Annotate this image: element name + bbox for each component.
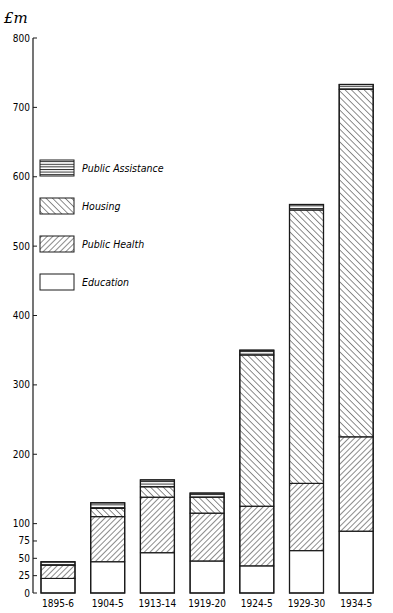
bar-segment-public-health — [339, 437, 373, 531]
legend-swatch-education — [40, 274, 74, 290]
bar-1934-5 — [339, 84, 373, 593]
x-tick-label: 1919-20 — [188, 598, 226, 609]
x-tick-label: 1895-6 — [42, 598, 74, 609]
y-tick-label: 0 — [24, 588, 30, 599]
bar-segment-education — [240, 566, 274, 593]
bar-1919-20 — [190, 493, 224, 593]
bar-segment-public-assistance — [339, 84, 373, 89]
y-tick-label: 600 — [13, 171, 30, 182]
legend-swatch-housing — [40, 198, 74, 214]
x-axis-labels: 1895-61904-51913-141919-201924-51929-301… — [42, 598, 372, 609]
legend-swatch-public-health — [40, 236, 74, 252]
bar-segment-public-health — [140, 497, 174, 553]
bar-segment-housing — [140, 487, 174, 497]
bar-segment-housing — [290, 210, 324, 483]
y-tick-label: 500 — [13, 241, 30, 252]
y-tick-label: 400 — [13, 310, 30, 321]
y-tick-label: 75 — [19, 535, 30, 546]
bar-1913-14 — [140, 480, 174, 593]
legend: Public AssistanceHousingPublic HealthEdu… — [40, 160, 164, 290]
x-tick-label: 1934-5 — [340, 598, 372, 609]
x-tick-label: 1924-5 — [241, 598, 273, 609]
y-tick-label: 800 — [13, 33, 30, 44]
bar-segment-education — [339, 531, 373, 593]
bar-segment-public-assistance — [140, 480, 174, 487]
x-tick-label: 1904-5 — [92, 598, 124, 609]
bar-segment-public-health — [91, 517, 125, 562]
bar-segment-education — [140, 553, 174, 593]
bar-segment-public-assistance — [240, 350, 274, 355]
bar-1929-30 — [290, 205, 324, 594]
bar-segment-housing — [240, 355, 274, 506]
legend-swatch-public-assistance — [40, 160, 74, 176]
x-tick-label: 1929-30 — [288, 598, 326, 609]
stacked-bar-chart: £m 0255075100200300400500600700800 Publi… — [0, 0, 393, 613]
bar-segment-housing — [91, 508, 125, 516]
bar-segment-public-assistance — [290, 205, 324, 211]
bars — [41, 84, 373, 593]
bar-1895-6 — [41, 562, 75, 593]
bar-segment-public-health — [190, 513, 224, 561]
legend-label: Education — [82, 276, 129, 288]
bar-1904-5 — [91, 503, 125, 593]
bar-segment-public-health — [41, 565, 75, 578]
legend-label: Housing — [82, 200, 120, 212]
y-axis-label: £m — [3, 9, 28, 27]
bar-segment-education — [91, 562, 125, 593]
bar-segment-public-health — [240, 506, 274, 566]
legend-label: Public Assistance — [82, 162, 164, 174]
bar-1924-5 — [240, 350, 274, 593]
y-tick-label: 100 — [13, 518, 30, 529]
bar-segment-housing — [190, 497, 224, 513]
y-tick-label: 300 — [13, 379, 30, 390]
y-tick-label: 200 — [13, 449, 30, 460]
bar-segment-public-health — [290, 483, 324, 550]
bar-segment-education — [190, 561, 224, 593]
y-axis: 0255075100200300400500600700800 — [13, 33, 37, 599]
y-tick-label: 25 — [19, 570, 30, 581]
y-tick-label: 50 — [19, 553, 31, 564]
bar-segment-education — [290, 551, 324, 593]
bar-segment-housing — [339, 89, 373, 437]
legend-label: Public Health — [82, 238, 144, 250]
bar-segment-public-assistance — [91, 503, 125, 509]
y-tick-label: 700 — [13, 102, 30, 113]
x-tick-label: 1913-14 — [139, 598, 177, 609]
bar-segment-education — [41, 578, 75, 593]
